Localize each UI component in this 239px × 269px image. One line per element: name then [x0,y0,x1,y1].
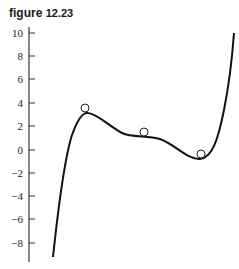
y-tick-label: 8 [18,50,24,62]
y-tick-label: −2 [11,167,23,179]
y-tick-label: 6 [18,73,24,85]
open-circle-marker [81,104,89,112]
y-tick-label: −6 [11,213,23,225]
y-tick-label: 4 [18,97,24,109]
y-tick-label: 10 [12,27,24,39]
open-circle-marker [140,128,148,136]
open-circle-marker [197,150,205,158]
y-tick-label: 2 [18,120,24,132]
chart-plot: 10 8 6 4 2 0 −2 −4 −6 −8 [0,0,239,269]
function-curve [53,33,234,257]
data-point-markers [81,104,205,158]
y-tick-label: 0 [18,144,24,156]
y-tick-label: −8 [11,237,23,249]
y-axis-tick-labels: 10 8 6 4 2 0 −2 −4 −6 −8 [11,27,23,249]
y-tick-label: −4 [11,190,23,202]
y-axis-ticks [29,33,35,243]
